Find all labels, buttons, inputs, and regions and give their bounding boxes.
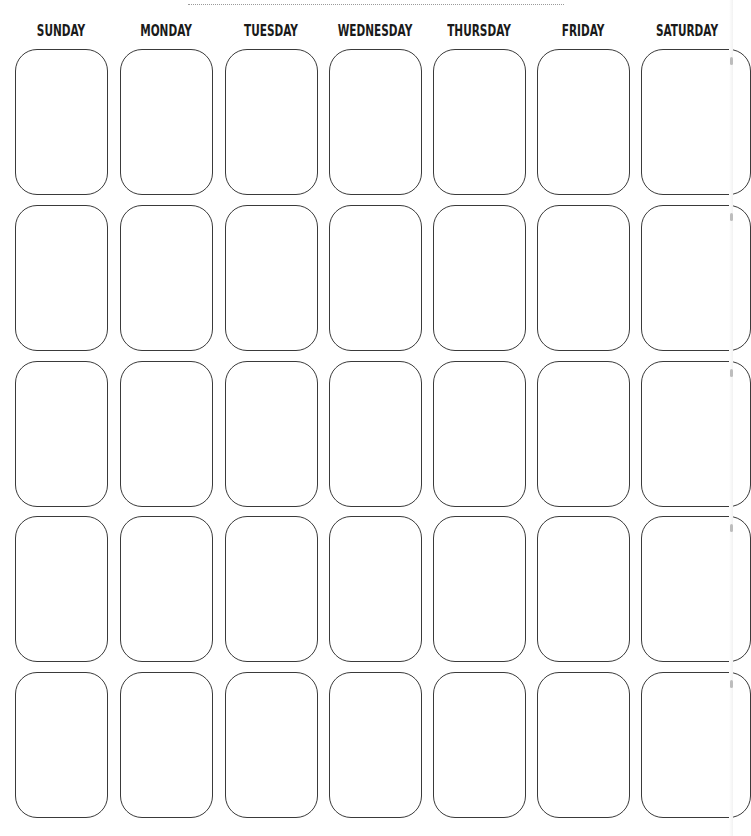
- day-cell[interactable]: [433, 205, 526, 351]
- day-cell[interactable]: [225, 672, 318, 818]
- day-cell[interactable]: [641, 672, 751, 818]
- day-cell[interactable]: [225, 205, 318, 351]
- page-notch: [730, 57, 733, 65]
- day-label-thursday: THURSDAY: [440, 22, 518, 40]
- day-cell[interactable]: [641, 361, 751, 507]
- day-label-wednesday: WEDNESDAY: [336, 22, 414, 40]
- day-label-sunday: SUNDAY: [22, 22, 100, 40]
- day-label-saturday: SATURDAY: [648, 22, 726, 40]
- day-cell[interactable]: [329, 205, 422, 351]
- page-notch: [730, 213, 733, 221]
- day-cell[interactable]: [329, 49, 422, 195]
- page-notch: [730, 680, 733, 688]
- day-cell[interactable]: [537, 361, 630, 507]
- day-cell[interactable]: [225, 516, 318, 662]
- page-notch: [730, 369, 733, 377]
- day-cell[interactable]: [641, 516, 751, 662]
- day-label-friday: FRIDAY: [544, 22, 622, 40]
- dotted-title-line: [188, 4, 564, 5]
- day-cell[interactable]: [641, 49, 751, 195]
- day-label-monday: MONDAY: [127, 22, 205, 40]
- day-cell[interactable]: [433, 516, 526, 662]
- day-cell[interactable]: [329, 516, 422, 662]
- day-cell[interactable]: [225, 49, 318, 195]
- day-cell[interactable]: [120, 361, 213, 507]
- day-cell[interactable]: [433, 49, 526, 195]
- day-label-tuesday: TUESDAY: [232, 22, 310, 40]
- day-cell[interactable]: [15, 49, 108, 195]
- day-cell[interactable]: [120, 49, 213, 195]
- day-cell[interactable]: [537, 516, 630, 662]
- day-cell[interactable]: [433, 672, 526, 818]
- page-notch: [730, 524, 733, 532]
- day-cell[interactable]: [120, 672, 213, 818]
- day-cell[interactable]: [329, 361, 422, 507]
- day-cell[interactable]: [641, 205, 751, 351]
- day-cell[interactable]: [15, 205, 108, 351]
- day-cell[interactable]: [537, 205, 630, 351]
- day-cell[interactable]: [537, 672, 630, 818]
- day-cell[interactable]: [15, 361, 108, 507]
- day-cell[interactable]: [120, 205, 213, 351]
- day-cell[interactable]: [15, 516, 108, 662]
- day-cell[interactable]: [537, 49, 630, 195]
- day-cell[interactable]: [120, 516, 213, 662]
- page-edge: [729, 0, 733, 836]
- day-cell[interactable]: [329, 672, 422, 818]
- day-cell[interactable]: [433, 361, 526, 507]
- day-cell[interactable]: [15, 672, 108, 818]
- day-cell[interactable]: [225, 361, 318, 507]
